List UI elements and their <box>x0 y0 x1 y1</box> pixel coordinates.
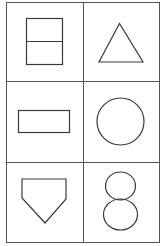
divided-square-shape <box>27 19 63 65</box>
triangle-shape <box>99 24 143 63</box>
figure-eight-shape <box>104 172 138 230</box>
rectangle-shape <box>19 111 70 133</box>
shape-grid-figure <box>0 0 168 246</box>
circle-shape <box>97 98 144 145</box>
pentagon-shape <box>22 179 66 223</box>
